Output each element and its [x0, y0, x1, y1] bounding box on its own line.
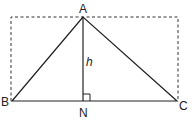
triangle-diagram: A B C N h	[0, 0, 195, 121]
triangle-abc	[12, 17, 177, 101]
label-n: N	[79, 106, 88, 120]
dashed-rectangle	[11, 17, 178, 101]
label-h: h	[86, 55, 93, 69]
right-angle-marker	[83, 94, 90, 101]
label-b: B	[1, 95, 9, 109]
label-a: A	[79, 2, 87, 16]
label-c: C	[179, 99, 188, 113]
